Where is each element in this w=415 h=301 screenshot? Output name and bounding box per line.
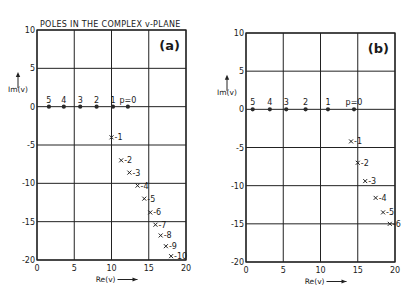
arrowhead-icon (225, 75, 229, 80)
pole-cross-marker (349, 139, 353, 143)
x-tick-label: 5 (281, 266, 286, 275)
pole-label: -3 (368, 177, 376, 186)
pole-label: -4 (379, 194, 387, 203)
pole-cross-marker (381, 210, 385, 214)
pole-label: 3 (284, 98, 289, 107)
y-tick-label: -15 (231, 220, 244, 229)
pole-dot-marker (304, 107, 308, 111)
y-tick-label: 10 (234, 29, 244, 38)
y-axis-label-text: Im(v) (217, 88, 237, 97)
y-tick-label: 0 (239, 105, 244, 114)
x-tick-label: 10 (315, 266, 325, 275)
x-axis-label-text: Re(v) (305, 277, 325, 286)
figure: POLES IN THE COMPLEX v-PLANE 05101520105… (0, 0, 415, 301)
pole-dot-marker (268, 107, 272, 111)
pole-cross-marker (374, 196, 378, 200)
pole-label: -5 (386, 208, 394, 217)
pole-label: p=0 (346, 98, 363, 107)
pole-label: -2 (361, 159, 369, 168)
y-tick-label: -10 (231, 182, 244, 191)
pole-label: 5 (250, 98, 255, 107)
y-axis-label: Im(v) (217, 75, 237, 97)
pole-dot-marker (352, 107, 356, 111)
grid (246, 33, 395, 262)
pole-label: 1 (325, 98, 330, 107)
pole-label: 4 (267, 98, 272, 107)
pole-label: -1 (354, 137, 362, 146)
pole-label: 2 (303, 98, 308, 107)
x-tick-label: 0 (243, 266, 248, 275)
pole-label: -6 (393, 220, 401, 229)
y-tick-label: -5 (236, 144, 244, 153)
y-tick-label: -20 (231, 258, 244, 267)
arrowhead-icon (342, 280, 347, 284)
pole-dot-marker (326, 107, 330, 111)
pole-cross-marker (363, 179, 367, 183)
x-tick-label: 20 (390, 266, 400, 275)
pole-dot-marker (284, 107, 288, 111)
x-tick-label: 15 (353, 266, 363, 275)
pole-dot-marker (251, 107, 255, 111)
panel-label: (b) (368, 41, 389, 56)
complex-poles: -1-2-3-4-5-6 (349, 137, 401, 228)
chart-panel-b: 051015201050-5-10-15-20Re(v)Im(v)(b)5432… (0, 0, 415, 301)
x-axis-label: Re(v) (305, 277, 347, 286)
y-tick-label: 5 (239, 67, 244, 76)
